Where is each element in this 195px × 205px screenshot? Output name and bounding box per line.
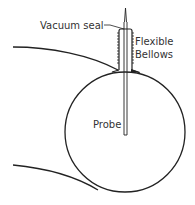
flexible-bellows	[117, 29, 134, 70]
upper-wall-curve	[13, 47, 118, 70]
bellows-label: Bellows	[135, 49, 173, 60]
vacuum-seal-label: Vacuum seal	[40, 20, 104, 31]
sphere-circle	[65, 72, 185, 192]
flexible-label: Flexible	[135, 36, 173, 47]
vacuum-seal-leader	[104, 25, 124, 29]
probe-label: Probe	[93, 119, 121, 130]
probe-bellows-diagram: Vacuum seal Flexible Bellows Probe	[0, 0, 195, 205]
